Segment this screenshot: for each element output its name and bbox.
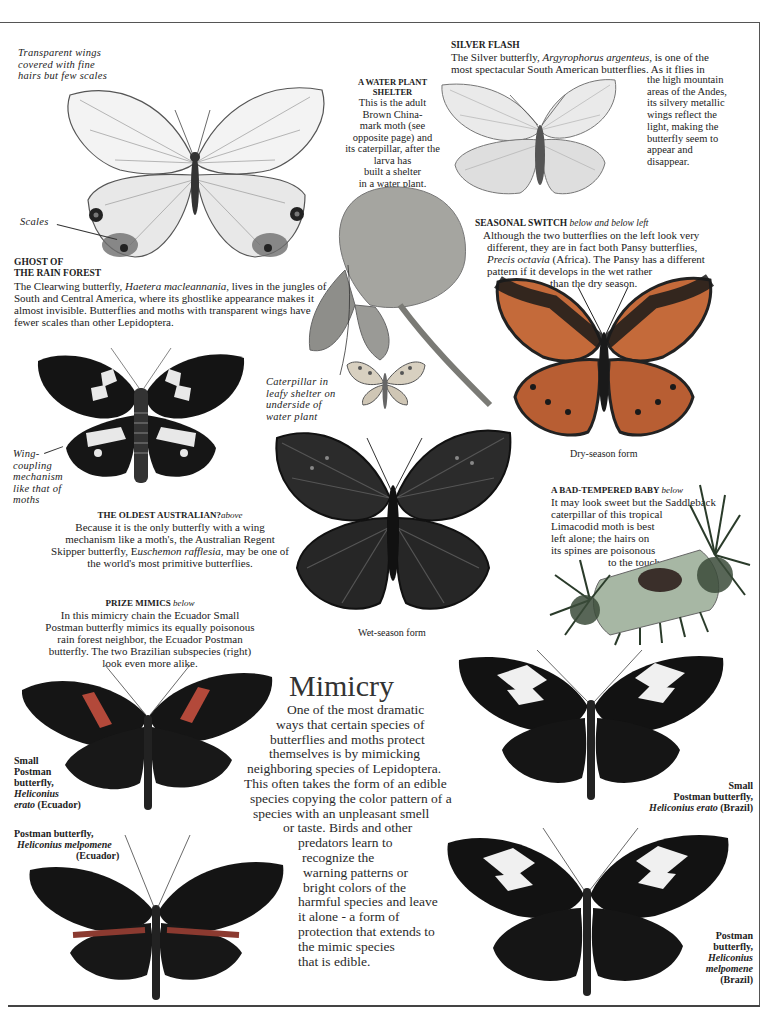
note-line: mechanism bbox=[13, 471, 63, 483]
body-line: different, they are in fact both Pansy b… bbox=[487, 241, 755, 253]
dry-season-pansy-image bbox=[493, 272, 715, 444]
small-postman-brazil-image bbox=[457, 650, 727, 800]
body-line: built a shelter bbox=[330, 166, 455, 178]
body-line: mark moth (see bbox=[330, 120, 455, 132]
saddleback-caterpillar-image bbox=[550, 485, 755, 645]
note-line: underside of bbox=[266, 399, 336, 411]
label-line: butterfly, bbox=[14, 777, 81, 788]
body-line: butterfly seem to bbox=[647, 133, 727, 145]
body-line: larva has bbox=[330, 155, 455, 167]
china-mark-moth-image bbox=[345, 353, 427, 413]
clearwing-butterfly-image bbox=[60, 85, 330, 260]
place: (Ecuador) bbox=[38, 799, 81, 810]
ghost-text: The Clearwing butterfly, bbox=[14, 280, 125, 292]
ghost-heading-1: GHOST OF bbox=[14, 257, 334, 268]
page-frame-top bbox=[0, 22, 760, 23]
body-line: wings reflect the bbox=[647, 109, 727, 121]
body-line: its silvery metallic bbox=[647, 97, 727, 109]
body-line: Postman butterfly mimics its equally poi… bbox=[0, 621, 300, 633]
body-line: the high mountain bbox=[647, 74, 727, 86]
label-line: Small bbox=[620, 780, 753, 791]
ghost-heading-2: THE RAIN FOREST bbox=[14, 268, 334, 279]
species: melpomene bbox=[706, 963, 753, 974]
body-line: areas of the Andes, bbox=[647, 86, 727, 98]
label-line: Postman butterfly, bbox=[620, 791, 753, 802]
page-frame-bottom bbox=[8, 1005, 760, 1007]
place: (Brazil) bbox=[680, 974, 753, 985]
label-line: Postman bbox=[14, 766, 81, 777]
species: erato bbox=[14, 799, 35, 810]
body-line: Precis octavia (Africa). The Pansy has a… bbox=[487, 253, 755, 265]
heading-note: below bbox=[173, 598, 195, 608]
note-line: leafy shelter on bbox=[266, 388, 336, 400]
heading-note: below and below left bbox=[570, 218, 649, 228]
note-line: coupling bbox=[13, 460, 63, 472]
page-title: Mimicry bbox=[289, 670, 394, 702]
prize-mimics-section: PRIZE MIMICS below In this mimicry chain… bbox=[0, 598, 300, 669]
heading-text: SEASONAL SWITCH bbox=[475, 218, 567, 228]
species: Argyrophorus argenteus, bbox=[543, 51, 652, 63]
dry-season-label: Dry-season form bbox=[570, 448, 637, 459]
wing-coupling-note: Wing- coupling mechanism like that of mo… bbox=[13, 448, 63, 506]
heading-text: PRIZE MIMICS bbox=[105, 598, 170, 608]
text: (Africa). The Pansy has a different bbox=[550, 253, 705, 265]
heading-note: above bbox=[221, 510, 243, 520]
body-line: species with an unpleasant smell bbox=[253, 807, 500, 822]
body-line: appear and bbox=[647, 144, 727, 156]
wet-season-pansy-image bbox=[272, 418, 514, 618]
body-line: butterfly. The two Brazilian subspecies … bbox=[0, 645, 300, 657]
ghost-body: The Clearwing butterfly, Haetera maclean… bbox=[14, 280, 334, 328]
body-line: In this mimicry chain the Ecuador Small bbox=[0, 609, 300, 621]
heading-text: THE OLDEST AUSTRALIAN? bbox=[98, 510, 221, 520]
body-line: rain forest neighbor, the Ecuador Postma… bbox=[0, 633, 300, 645]
silver-flash-section: SILVER FLASH The Silver butterfly, Argyr… bbox=[451, 40, 751, 75]
seasonal-heading: SEASONAL SWITCH below and below left bbox=[475, 218, 755, 229]
regent-skipper-image bbox=[36, 343, 246, 488]
note-line: covered with fine bbox=[18, 59, 107, 71]
body-line: Brown China- bbox=[330, 109, 455, 121]
body-line: light, making the bbox=[647, 121, 727, 133]
note-line: like that of bbox=[13, 483, 63, 495]
note-line: moths bbox=[13, 494, 63, 506]
label-line: butterfly, bbox=[680, 941, 753, 952]
species: uschemon rafflesia, bbox=[137, 545, 223, 557]
water-plant-heading-2: SHELTER bbox=[330, 87, 455, 97]
body-line: This is the adult bbox=[330, 97, 455, 109]
transparent-wings-note: Transparent wings covered with fine hair… bbox=[18, 47, 107, 82]
caterpillar-note: Caterpillar in leafy shelter on undersid… bbox=[266, 376, 336, 422]
silver-butterfly-image bbox=[440, 75, 620, 200]
label-line: Postman bbox=[680, 930, 753, 941]
body-line: disappear. bbox=[647, 156, 727, 168]
water-plant-body: This is the adult Brown China- mark moth… bbox=[330, 97, 455, 189]
species: Precis octavia bbox=[487, 253, 550, 265]
ghost-section: GHOST OF THE RAIN FOREST The Clearwing b… bbox=[14, 257, 334, 328]
body-line: opposite page) and bbox=[330, 132, 455, 144]
water-plant-heading-1: A WATER PLANT bbox=[330, 77, 455, 87]
prize-heading: PRIZE MIMICS below bbox=[0, 598, 300, 609]
body-line: Although the two butterflies on the left… bbox=[483, 229, 755, 241]
silver-flash-wrap: the high mountain areas of the Andes, it… bbox=[647, 74, 727, 168]
small-postman-brazil-label: Small Postman butterfly, Heliconius erat… bbox=[620, 780, 753, 813]
text: is one of the bbox=[652, 51, 709, 63]
silver-flash-heading: SILVER FLASH bbox=[451, 40, 751, 51]
ghost-species: Haetera macleannania, bbox=[125, 280, 229, 292]
species: Heliconius bbox=[14, 788, 59, 799]
label-line: Small bbox=[14, 755, 81, 766]
scales-label: Scales bbox=[20, 216, 49, 228]
place: (Brazil) bbox=[720, 802, 753, 813]
silver-flash-line-1: The Silver butterfly, Argyrophorus argen… bbox=[451, 51, 751, 63]
species: Heliconius bbox=[708, 952, 753, 963]
text: The Silver butterfly, bbox=[451, 51, 543, 63]
water-plant-section: A WATER PLANT SHELTER This is the adult … bbox=[330, 77, 455, 189]
note-line: Caterpillar in bbox=[266, 376, 336, 388]
note-line: Transparent wings bbox=[18, 47, 107, 59]
small-postman-ecuador-label: Small Postman butterfly, Heliconius erat… bbox=[14, 755, 81, 810]
postman-brazil-label: Postman butterfly, Heliconius melpomene … bbox=[680, 930, 753, 985]
note-line: hairs but few scales bbox=[18, 70, 107, 82]
species: Heliconius erato bbox=[649, 802, 718, 813]
text: Skipper butterfly, E bbox=[51, 545, 137, 557]
wet-season-label: Wet-season form bbox=[358, 627, 426, 638]
